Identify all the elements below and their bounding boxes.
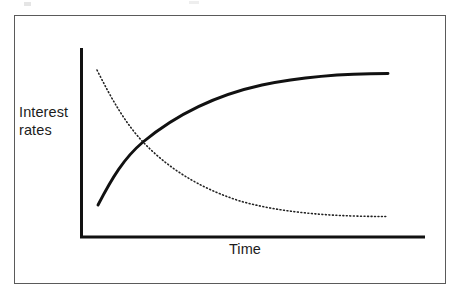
x-axis-label: Time <box>181 241 309 259</box>
y-axis-label-line2: rates <box>19 122 52 138</box>
y-axis-label: Interestrates <box>19 104 68 139</box>
rising-curve <box>98 74 388 206</box>
y-axis-label-line1: Interest <box>19 104 68 120</box>
figure-root: Interestrates Time <box>0 0 460 301</box>
